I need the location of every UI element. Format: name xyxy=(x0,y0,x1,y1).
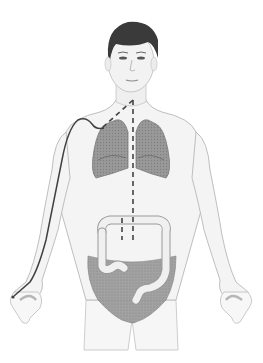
catheter-tip xyxy=(11,295,14,298)
eye-right xyxy=(137,56,145,59)
head xyxy=(105,22,158,92)
eye-left xyxy=(119,56,127,59)
anatomy-figure xyxy=(0,0,263,363)
